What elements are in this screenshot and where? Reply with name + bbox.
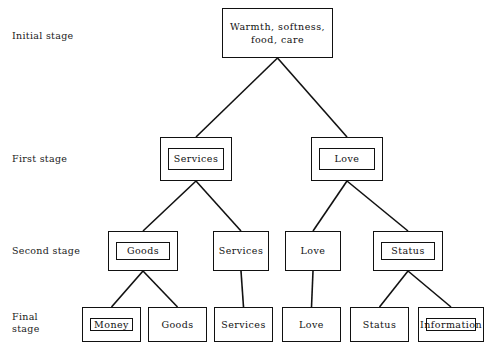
node-inner-s2-services: Services: [214, 232, 268, 270]
edge-root-to-s1-love: [278, 58, 348, 137]
edge-root-to-s1-services: [196, 58, 278, 137]
edge-s2-status-to-f-status: [380, 271, 409, 307]
node-f-status: Status: [350, 307, 409, 342]
edge-s2-status-to-f-information: [408, 271, 451, 307]
node-label-s2-goods: Goods: [127, 245, 159, 257]
node-inner-s2-status: Status: [381, 242, 435, 260]
node-label-f-status: Status: [363, 319, 397, 331]
node-f-services: Services: [214, 307, 273, 342]
node-inner-s1-love: Love: [319, 148, 375, 170]
node-root: Warmth, softness, food, care: [222, 8, 333, 58]
node-inner-f-status: Status: [351, 308, 408, 341]
node-inner-f-money: Money: [90, 318, 133, 331]
node-label-f-goods: Goods: [161, 319, 193, 331]
node-inner-s2-goods: Goods: [116, 242, 170, 260]
node-label-f-services: Services: [221, 319, 266, 331]
node-f-information: Information: [418, 307, 484, 342]
node-inner-f-information: Information: [426, 318, 476, 331]
node-s2-status: Status: [373, 231, 443, 271]
node-inner-s1-services: Services: [168, 148, 224, 170]
edge-s2-goods-to-f-goods: [143, 271, 178, 307]
node-inner-s2-love: Love: [286, 232, 340, 270]
node-label-s2-status: Status: [391, 245, 425, 257]
edge-s1-love-to-s2-love: [313, 181, 347, 231]
node-label-f-information: Information: [420, 319, 482, 331]
edge-s2-love-to-f-love: [312, 271, 314, 307]
edge-s1-love-to-s2-status: [347, 181, 408, 231]
node-s1-love: Love: [311, 137, 383, 181]
edge-s1-services-to-s2-goods: [143, 181, 196, 231]
edge-s2-goods-to-f-money: [112, 271, 144, 307]
node-label-f-money: Money: [94, 319, 129, 331]
edge-s1-services-to-s2-services: [196, 181, 241, 231]
node-inner-root: Warmth, softness, food, care: [223, 9, 332, 57]
node-f-money: Money: [82, 307, 141, 342]
node-inner-f-goods: Goods: [149, 308, 206, 341]
node-s2-services: Services: [213, 231, 269, 271]
node-label-s2-love: Love: [301, 245, 326, 257]
node-label-s1-love: Love: [335, 153, 360, 165]
node-label-root: Warmth, softness, food, care: [230, 20, 325, 46]
node-f-goods: Goods: [148, 307, 207, 342]
node-label-s2-services: Services: [219, 245, 264, 257]
hierarchy-diagram: Initial stageFirst stageSecond stageFina…: [0, 0, 489, 345]
node-inner-f-services: Services: [215, 308, 272, 341]
node-s2-goods: Goods: [108, 231, 178, 271]
node-s1-services: Services: [160, 137, 232, 181]
node-label-s1-services: Services: [174, 153, 219, 165]
node-s2-love: Love: [285, 231, 341, 271]
node-f-love: Love: [282, 307, 341, 342]
edge-s2-services-to-f-services: [241, 271, 244, 307]
node-label-f-love: Love: [299, 319, 324, 331]
node-inner-f-love: Love: [283, 308, 340, 341]
